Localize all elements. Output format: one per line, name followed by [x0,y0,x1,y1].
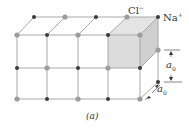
cl-ion-label: Cl− [128,5,144,16]
figure-caption: (a) [86,112,98,121]
na-charge: + [178,11,183,18]
unit-cell-front-face [108,35,140,68]
cl-charge: − [139,4,144,11]
a0-depth-sub: 0 [163,89,167,96]
cl-text: Cl [128,5,139,16]
na-ion-label: Na+ [163,12,183,23]
a0-vertical-label: a0 [166,60,176,72]
a0-vertical-sub: 0 [172,65,176,72]
a0-depth-label: a0 [157,84,167,96]
na-text: Na [163,12,178,23]
